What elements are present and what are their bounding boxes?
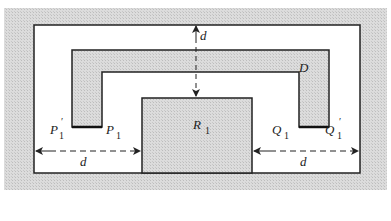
diagram-canvas: d d d D R 1 P 1 ′ P 1 Q 1 Q 1 ′ (0, 0, 391, 221)
label-D: D (298, 60, 309, 75)
label-d-left: d (80, 154, 87, 169)
label-Q1-prime: Q (325, 122, 335, 137)
label-R1-sub: 1 (205, 125, 210, 136)
label-Q1-prime-mark: ′ (339, 116, 341, 127)
label-Q1-sub: 1 (284, 130, 289, 141)
label-P1: P (105, 122, 114, 137)
label-d-right: d (300, 154, 307, 169)
label-P1-prime-sub: 1 (59, 130, 64, 141)
label-Q1: Q (272, 122, 282, 137)
label-Q1-prime-sub: 1 (337, 130, 342, 141)
label-d-top: d (200, 28, 207, 43)
label-P1-prime-mark: ′ (61, 116, 63, 127)
label-P1-sub: 1 (116, 130, 121, 141)
label-R1: R (192, 117, 201, 132)
region-R1 (142, 98, 252, 173)
label-P1-prime: P (49, 122, 58, 137)
